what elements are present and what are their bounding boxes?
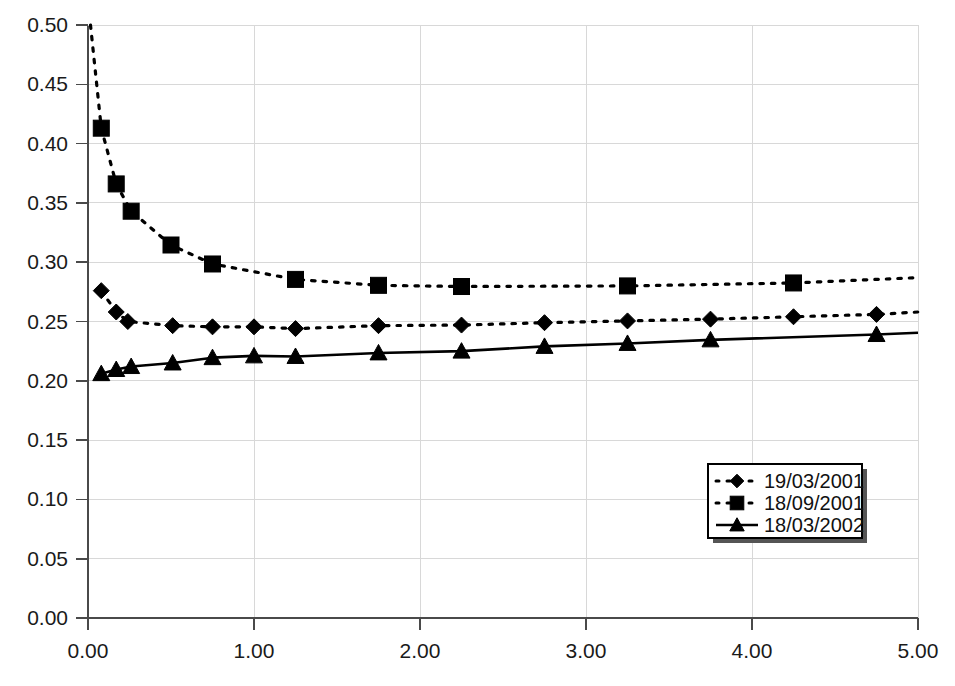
marker-square xyxy=(123,203,139,219)
marker-square xyxy=(288,271,304,287)
marker-diamond xyxy=(703,311,719,327)
y-tick-label: 0.10 xyxy=(27,487,68,510)
x-tick-label: 3.00 xyxy=(566,639,607,662)
y-tick-label: 0.45 xyxy=(27,72,68,95)
marker-diamond xyxy=(371,318,387,334)
y-tick-label: 0.30 xyxy=(27,250,68,273)
marker-diamond xyxy=(288,321,304,337)
marker-diamond xyxy=(537,315,553,331)
y-tick-label: 0.35 xyxy=(27,191,68,214)
marker-diamond xyxy=(869,306,885,322)
legend-entry-label: 19/03/2001 xyxy=(764,470,864,492)
y-tick-label: 0.50 xyxy=(27,13,68,36)
x-tick-label: 4.00 xyxy=(732,639,773,662)
marker-square xyxy=(371,277,387,293)
series-line-path xyxy=(101,333,918,374)
marker-square xyxy=(163,237,179,253)
marker-square xyxy=(786,275,802,291)
chart-legend[interactable]: 19/03/200118/09/200118/03/2002 xyxy=(708,464,867,543)
y-tick-label: 0.05 xyxy=(27,547,68,570)
marker-square xyxy=(620,278,636,294)
marker-square xyxy=(454,279,470,295)
line-chart: 0.000.050.100.150.200.250.300.350.400.45… xyxy=(0,0,955,686)
x-tick-label: 5.00 xyxy=(898,639,939,662)
y-tick-label: 0.00 xyxy=(27,606,68,629)
marker-diamond xyxy=(786,309,802,325)
marker-diamond xyxy=(93,283,109,299)
marker-square xyxy=(205,256,221,272)
y-tick-label: 0.40 xyxy=(27,132,68,155)
chart-container: 0.000.050.100.150.200.250.300.350.400.45… xyxy=(0,0,955,686)
marker-diamond xyxy=(165,318,181,334)
data-series xyxy=(90,25,918,295)
y-tick-label: 0.20 xyxy=(27,369,68,392)
x-tick-label: 1.00 xyxy=(234,639,275,662)
x-tick-label: 0.00 xyxy=(68,639,109,662)
legend-entry-label: 18/09/2001 xyxy=(764,492,864,514)
series-line-path xyxy=(90,25,918,287)
marker-diamond xyxy=(454,317,470,333)
x-tick-label: 2.00 xyxy=(400,639,441,662)
legend-entry-label: 18/03/2002 xyxy=(764,514,864,536)
data-series xyxy=(93,326,918,381)
marker-square xyxy=(93,120,109,136)
marker-square xyxy=(730,496,744,510)
y-tick-label: 0.25 xyxy=(27,310,68,333)
y-tick-label: 0.15 xyxy=(27,428,68,451)
marker-square xyxy=(108,176,124,192)
marker-diamond xyxy=(620,313,636,329)
